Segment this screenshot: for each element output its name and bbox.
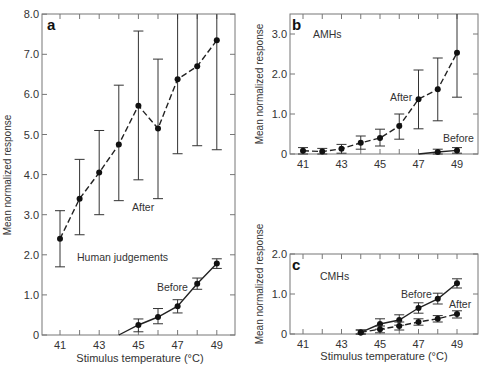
y-tick-label: 1.0 — [24, 289, 39, 301]
data-point — [155, 125, 161, 131]
x-tick-label: 43 — [93, 339, 105, 351]
series-line-after — [361, 314, 457, 332]
panel-a-ylabel: Mean normalized response — [2, 114, 13, 235]
data-point — [454, 280, 460, 286]
y-tick-label: 0 — [281, 148, 287, 160]
x-tick-label: 45 — [374, 338, 386, 350]
x-tick-label: 45 — [374, 158, 386, 170]
data-point — [194, 63, 200, 69]
figure: 414345474901.02.03.04.05.06.07.08.041434… — [0, 0, 488, 371]
data-point — [454, 147, 460, 153]
data-point — [339, 146, 345, 152]
data-point — [155, 314, 161, 320]
data-point — [435, 316, 441, 322]
x-tick-label: 43 — [335, 338, 347, 350]
y-tick-label: 2.0 — [272, 68, 287, 80]
y-tick-label: 3.0 — [24, 209, 39, 221]
panel-b-after-label: After — [390, 91, 413, 103]
y-tick-label: 5.0 — [24, 129, 39, 141]
data-point — [214, 37, 220, 43]
panel-c-ylabel: Mean normalized response — [254, 223, 265, 344]
panel-b-letter: b — [292, 16, 301, 33]
data-point — [416, 305, 422, 311]
data-point — [377, 326, 383, 332]
data-point — [416, 96, 422, 102]
y-tick-label: 2.0 — [272, 248, 287, 260]
y-tick-label: 1.0 — [272, 108, 287, 120]
data-point — [454, 50, 460, 56]
data-point — [135, 103, 141, 109]
y-tick-label: 0 — [33, 329, 39, 341]
data-point — [435, 149, 441, 155]
y-tick-label: 2.0 — [24, 249, 39, 261]
data-point — [300, 148, 306, 154]
data-point — [377, 135, 383, 141]
panel-b-before-label: Before — [443, 132, 474, 144]
data-point — [435, 296, 441, 302]
data-point — [435, 86, 441, 92]
data-point — [319, 149, 325, 155]
panel-c-title: CMHs — [320, 270, 349, 282]
x-tick-label: 41 — [297, 158, 309, 170]
panel-a-letter: a — [47, 16, 56, 33]
data-point — [454, 311, 460, 317]
y-tick-label: 7.0 — [24, 48, 39, 60]
data-point — [194, 281, 200, 287]
y-tick-label: 3.0 — [272, 28, 287, 40]
panel-a-after-label: After — [132, 201, 155, 213]
x-tick-label: 41 — [297, 338, 309, 350]
panel-c-frame — [290, 254, 478, 334]
data-point — [175, 303, 181, 309]
data-point — [116, 142, 122, 148]
data-point — [77, 196, 83, 202]
panel-a-xlabel: Stimulus temperature (°C) — [76, 352, 203, 364]
data-point — [358, 140, 364, 146]
data-point — [175, 76, 181, 82]
data-point — [96, 170, 102, 176]
x-tick-label: 41 — [54, 339, 66, 351]
x-tick-label: 47 — [171, 339, 183, 351]
panel-b-title: AMHs — [313, 28, 342, 40]
tick-labels: 414345474901.02.03.04.05.06.07.08.041434… — [24, 8, 463, 351]
data-point — [358, 329, 364, 335]
x-tick-label: 49 — [211, 339, 223, 351]
panel-a-title: Human judgements — [77, 251, 168, 263]
x-tick-label: 47 — [412, 338, 424, 350]
data-point — [396, 123, 402, 129]
data-point — [416, 319, 422, 325]
panel-c-before-label: Before — [401, 288, 432, 300]
y-tick-label: 6.0 — [24, 88, 39, 100]
x-tick-label: 45 — [132, 339, 144, 351]
x-tick-label: 43 — [335, 158, 347, 170]
y-tick-label: 1.0 — [272, 288, 287, 300]
x-tick-label: 47 — [412, 158, 424, 170]
panel-a-before-label: Before — [157, 281, 188, 293]
data-point — [214, 261, 220, 267]
panel-c-xlabel: Stimulus temperature (°C) — [320, 350, 447, 362]
data-point — [57, 236, 63, 242]
data-point — [135, 322, 141, 328]
series-line-before — [119, 264, 217, 335]
panel-b-ylabel: Mean normalized response — [254, 23, 265, 144]
x-tick-label: 49 — [451, 158, 463, 170]
y-tick-label: 8.0 — [24, 8, 39, 20]
y-tick-label: 0 — [281, 328, 287, 340]
panel-c-after-label: After — [449, 298, 472, 310]
y-tick-label: 4.0 — [24, 169, 39, 181]
data-point — [396, 323, 402, 329]
panel-c-letter: c — [292, 256, 300, 273]
x-tick-label: 49 — [451, 338, 463, 350]
